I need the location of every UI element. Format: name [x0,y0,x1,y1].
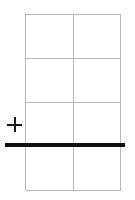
diagram-description: Blank two-column by four-row grid with a… [0,0,1,1]
grid-row [26,103,121,147]
grid-cell [74,103,122,147]
plus-icon-vertical-bar [14,117,16,132]
grid-table [25,14,121,190]
grid-row [26,15,121,59]
grid-row [26,147,121,191]
grid-cell [26,15,74,59]
plus-icon [7,117,22,132]
grid-cell [74,59,122,103]
grid-cell [74,15,122,59]
grid-cell [74,147,122,191]
diagram-canvas: Blank two-column by four-row grid with a… [0,0,135,200]
grid-cell [26,103,74,147]
grid-row [26,59,121,103]
grid-cell [26,59,74,103]
horizontal-rule [5,143,125,147]
grid-cell [26,147,74,191]
